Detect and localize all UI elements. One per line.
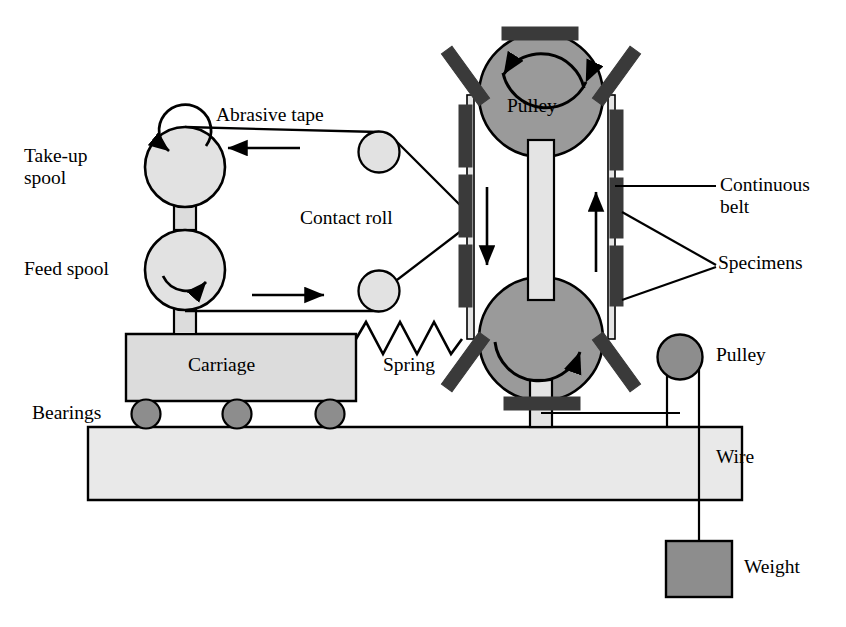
leader-lines (615, 186, 716, 300)
bearing (316, 400, 345, 429)
pulley-shaft (528, 140, 554, 300)
label-weight: Weight (744, 556, 800, 578)
specimen (459, 105, 472, 167)
label-specimens: Specimens (718, 252, 802, 274)
wire-pulley (658, 335, 703, 380)
weight-block (666, 541, 732, 597)
schematic-svg (0, 0, 846, 627)
label-carriage: Carriage (188, 354, 255, 376)
specimen (459, 175, 472, 237)
spring-coil (356, 322, 462, 354)
label-bearings: Bearings (32, 402, 101, 424)
base-plate (88, 427, 742, 500)
upper-idler-roller (359, 132, 400, 173)
label-abrasive-tape: Abrasive tape (216, 104, 324, 126)
take-up-spool (145, 127, 225, 207)
lower-idler-roller (359, 271, 400, 312)
label-take-up-spool-line1: Take-up (24, 145, 88, 167)
label-take-up-spool-line2: spool (24, 167, 66, 189)
specimen (502, 27, 578, 40)
specimen-leader-lower (622, 267, 716, 300)
label-pulley-top: Pulley (507, 95, 557, 117)
specimen-leader-upper (622, 212, 716, 265)
label-continuous-belt-line1: Continuous (720, 174, 810, 196)
diagram-canvas: Abrasive tape Take-up spool Feed spool C… (0, 0, 846, 627)
label-contact-roll: Contact roll (300, 207, 393, 229)
label-feed-spool: Feed spool (24, 258, 109, 280)
bearing (223, 400, 252, 429)
specimen (610, 246, 623, 306)
label-continuous-belt-line2: belt (720, 196, 749, 218)
feed-spool (145, 230, 225, 310)
bearing (132, 400, 161, 429)
label-wire: Wire (716, 446, 754, 468)
specimen (504, 397, 580, 410)
bearings-group (132, 400, 345, 429)
label-pulley-right: Pulley (716, 344, 766, 366)
label-spring: Spring (383, 354, 435, 376)
specimen (459, 245, 472, 307)
specimen (610, 110, 623, 170)
